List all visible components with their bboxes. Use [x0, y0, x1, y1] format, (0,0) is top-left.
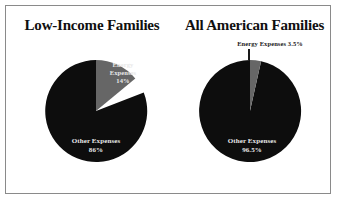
panel-title-right: All American Families — [172, 17, 337, 34]
pie-chart-low-income — [34, 49, 158, 173]
figure-root: Low-Income Families Energy Expenses 14% … — [0, 0, 337, 200]
pie-svg-right — [188, 49, 312, 173]
pie-chart-all-american — [188, 49, 312, 173]
panel-low-income-families: Low-Income Families Energy Expenses 14% … — [12, 6, 172, 193]
pie-svg-left — [34, 49, 158, 173]
figure-frame: Low-Income Families Energy Expenses 14% … — [5, 5, 331, 194]
panel-all-american-families: All American Families Energy Expenses 3.… — [172, 6, 337, 193]
callout-label-energy-expenses-right: Energy Expenses 3.5% — [216, 40, 324, 47]
panel-title-left: Low-Income Families — [12, 17, 172, 34]
